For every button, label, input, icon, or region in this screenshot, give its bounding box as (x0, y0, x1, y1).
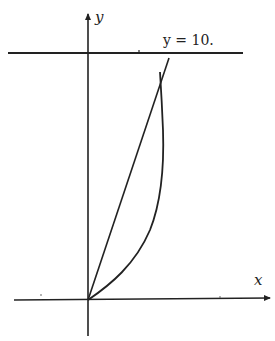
speck (138, 50, 140, 52)
x-axis-label: x (254, 271, 263, 289)
speck (219, 296, 221, 298)
horizontal-line-label: y = 10. (162, 32, 214, 48)
diagram-figure: y = 10. y x (0, 0, 275, 341)
y-axis-label: y (94, 8, 104, 26)
speck (40, 294, 42, 296)
x-axis (14, 298, 270, 300)
